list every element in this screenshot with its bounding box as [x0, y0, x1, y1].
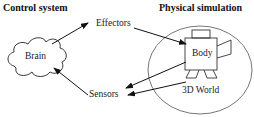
control-system-header: Control system: [3, 3, 68, 13]
arrow-world-to-sensors: [128, 82, 186, 95]
physical-simulation-header: Physical simulation: [159, 3, 242, 13]
3d-world-label: 3D World: [182, 86, 219, 96]
sensors-label: Sensors: [89, 90, 119, 100]
body-label: Body: [192, 49, 213, 59]
arrow-sensors-to-brain: [54, 68, 88, 95]
diagram-canvas: Control system Physical simulation Effec…: [0, 0, 254, 117]
arrow-brain-to-effectors: [52, 23, 88, 44]
brain-label: Brain: [25, 52, 46, 62]
effectors-label: Effectors: [96, 19, 131, 29]
